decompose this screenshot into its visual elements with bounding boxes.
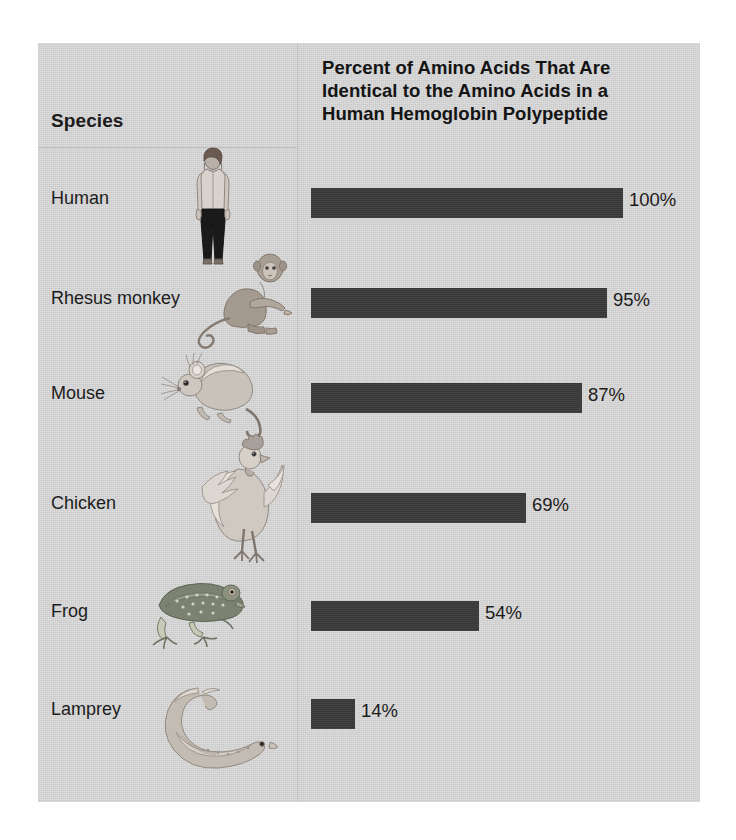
chart-row: Mouse bbox=[38, 355, 700, 458]
chart-row: Chicken 69% bbox=[38, 458, 700, 561]
frog-illustration bbox=[131, 571, 259, 653]
chart-title-line-1: Percent of Amino Acids That Are bbox=[322, 56, 694, 79]
chart-row: Frog bbox=[38, 561, 700, 664]
chart-row: Lamprey 14% bbox=[38, 664, 700, 767]
bar-human bbox=[311, 188, 623, 218]
species-label: Mouse bbox=[51, 383, 105, 404]
species-label: Human bbox=[51, 188, 109, 209]
chart-title: Percent of Amino Acids That Are Identica… bbox=[322, 56, 694, 125]
species-label: Lamprey bbox=[51, 699, 121, 720]
chart-title-line-2: Identical to the Amino Acids in a bbox=[322, 79, 694, 102]
bar-rhesus-monkey bbox=[311, 288, 607, 318]
rhesus-monkey-illustration bbox=[188, 244, 296, 352]
bar-lamprey bbox=[311, 699, 355, 729]
chart-title-line-3: Human Hemoglobin Polypeptide bbox=[322, 102, 694, 125]
bar-value-lamprey: 14% bbox=[361, 700, 398, 722]
species-label: Frog bbox=[51, 601, 88, 622]
species-header-underline bbox=[38, 147, 297, 148]
chart-row: Rhesus monkey 95% bbox=[38, 252, 700, 355]
lamprey-illustration bbox=[146, 676, 284, 774]
bar-value-chicken: 69% bbox=[532, 494, 569, 516]
bar-frog bbox=[311, 601, 479, 631]
species-column-header: Species bbox=[51, 110, 124, 132]
mouse-illustration bbox=[156, 343, 274, 439]
species-label: Rhesus monkey bbox=[51, 288, 180, 309]
bar-value-mouse: 87% bbox=[588, 384, 625, 406]
human-figure-illustration bbox=[173, 145, 253, 267]
hemoglobin-similarity-figure: Species Percent of Amino Acids That Are … bbox=[38, 43, 700, 802]
bar-value-rhesus-monkey: 95% bbox=[613, 289, 650, 311]
bar-value-frog: 54% bbox=[485, 602, 522, 624]
bar-mouse bbox=[311, 383, 582, 413]
chart-row: Human 100% bbox=[38, 149, 700, 252]
species-label: Chicken bbox=[51, 493, 116, 514]
bar-chicken bbox=[311, 493, 526, 523]
bar-value-human: 100% bbox=[629, 189, 676, 211]
